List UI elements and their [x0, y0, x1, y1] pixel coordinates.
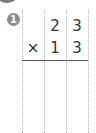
grid-line [88, 10, 89, 133]
multiplicand-ones: 3 [66, 17, 88, 35]
answer-line [22, 60, 88, 61]
grid-line [22, 10, 23, 133]
multiply-operator: × [22, 39, 44, 57]
problem-number-badge: 1 [7, 13, 20, 26]
decorative-circle [0, 0, 18, 3]
multiplier-ones: 3 [66, 39, 88, 57]
multiplicand-tens: 2 [44, 17, 66, 35]
multiplier-tens: 1 [44, 39, 66, 57]
